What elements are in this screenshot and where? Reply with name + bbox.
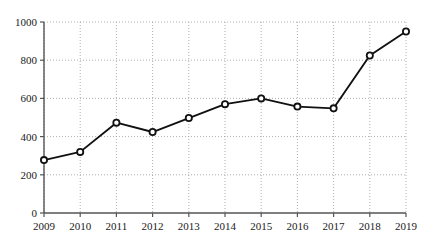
y-axis-tick-label: 400 — [21, 131, 38, 142]
x-axis-tick-label: 2015 — [250, 221, 272, 232]
x-axis-tick-label: 2017 — [323, 221, 345, 232]
axis-ticks — [40, 22, 406, 217]
grid-lines-vertical — [44, 22, 406, 213]
x-axis-tick-label: 2016 — [286, 221, 308, 232]
x-axis-tick-label: 2014 — [214, 221, 236, 232]
x-axis-tick-label: 2013 — [178, 221, 200, 232]
y-axis-tick-label: 800 — [21, 55, 38, 66]
chart-plot-area — [0, 0, 434, 245]
y-axis-tick-label: 1000 — [15, 17, 37, 28]
x-axis-tick-label: 2012 — [142, 221, 164, 232]
line-chart: 02004006008001000 2009201020112012201320… — [0, 0, 434, 245]
y-axis-tick-label: 200 — [21, 169, 38, 180]
y-axis-tick-label: 0 — [32, 208, 38, 219]
x-axis-tick-label: 2011 — [106, 221, 128, 232]
x-axis-tick-label: 2019 — [395, 221, 417, 232]
x-axis-tick-label: 2010 — [69, 221, 91, 232]
y-axis-tick-label: 600 — [21, 93, 38, 104]
x-axis-tick-label: 2018 — [359, 221, 381, 232]
x-axis-tick-label: 2009 — [33, 221, 55, 232]
data-series-line — [44, 32, 406, 161]
